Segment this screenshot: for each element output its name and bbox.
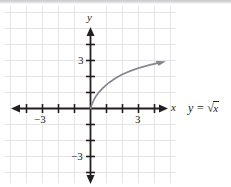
x-tick-label-3: 3	[135, 114, 141, 125]
coordinate-plane	[0, 0, 231, 187]
radical-sign: √x	[207, 101, 219, 114]
sqrt-curve-path	[91, 63, 161, 109]
axes	[11, 27, 168, 184]
graph-figure: y x 3 −3 −3 3 y = √x	[0, 0, 231, 187]
x-axis-left-arrowhead	[11, 105, 20, 113]
equation-equals-sign: =	[194, 101, 208, 115]
y-axis-name-label: y	[87, 12, 92, 23]
y-tick-label-neg3: −3	[71, 151, 83, 162]
equation-radicand: x	[213, 102, 218, 114]
function-equation-label: y = √x	[188, 101, 219, 114]
x-axis-name-label: x	[171, 102, 176, 113]
x-axis-right-arrowhead	[159, 105, 168, 113]
radical-vinculum: x	[213, 101, 219, 114]
x-tick-label-neg3: −3	[34, 114, 46, 125]
y-axis-bottom-arrowhead	[87, 175, 95, 184]
y-tick-label-3: 3	[78, 55, 84, 66]
